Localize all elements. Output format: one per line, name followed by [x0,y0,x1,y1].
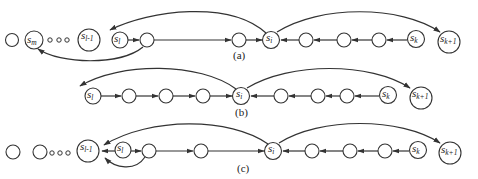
node-empty [378,144,392,158]
arc-s-i-to-s-k-plus-1 [277,12,440,32]
arc-to-s-l-minus-1 [105,157,145,167]
node-empty [311,89,325,103]
node-empty [6,34,19,47]
node-s-i: si [233,87,250,105]
node-s-i: si [263,31,280,49]
node-s-l-minus-1: sl-1 [78,29,100,51]
node-empty [337,33,351,47]
node-s-k: sk [408,31,425,48]
arc-s-i-to-s-k-plus-1 [279,124,440,144]
node-empty [274,89,288,103]
caption-c: (c) [237,162,250,175]
node-empty [196,89,210,103]
node-s-k-plus-1: sk+1 [410,87,432,109]
caption-a: (a) [233,49,246,62]
node-empty [372,33,386,47]
node-s-l: sl [115,141,131,158]
node-s-k-plus-1: sk+1 [438,31,460,53]
node-empty [140,33,154,47]
node-s-l-minus-1: sl-1 [77,140,99,162]
node-s-k: sk [410,142,427,159]
panel-c: sl-1 sl si sk sk+1 [6,124,461,176]
node-s-l: sl [85,88,101,104]
panel-b: sl si sk sk+1 (b) [80,68,432,119]
node-empty [6,145,20,159]
node-empty [299,33,313,47]
node-empty [142,144,156,158]
arc-s-i-to-s-k-plus-1 [247,69,410,89]
node-empty [159,89,173,103]
node-s-k-plus-1: sk+1 [439,142,461,164]
node-empty [343,144,357,158]
node-s-m: sm [25,31,43,49]
node-empty [340,89,354,103]
arc-s-i-to-s-l-minus-1 [104,124,268,145]
arc-s-i-to-s-l [80,68,236,89]
node-s-i: si [265,142,282,160]
node-empty [122,89,136,103]
node-empty [305,144,319,158]
arc-s-i-to-s-l [110,12,266,33]
state-sequence-diagram: sm sl-1 sl si sk sk+1 [0,0,478,179]
node-s-l: sl [112,32,128,48]
node-empty [232,33,246,47]
node-empty [33,145,47,159]
ellipsis-dots [48,38,69,42]
node-empty [194,144,208,158]
ellipsis-dots [50,151,70,155]
node-s-k: sk [380,87,397,104]
caption-b: (b) [235,106,248,119]
panel-a: sm sl-1 sl si sk sk+1 [6,12,461,62]
